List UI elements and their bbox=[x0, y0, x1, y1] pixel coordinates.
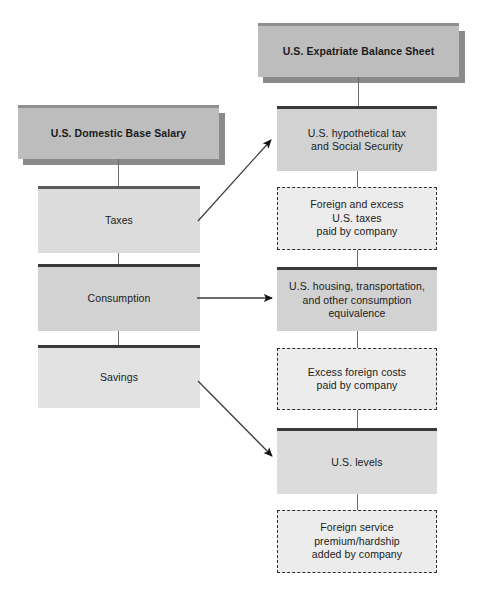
connector-salary-to-taxes bbox=[118, 159, 119, 187]
right-segment-foreign-excess-taxes: Foreign and excessU.S. taxespaid by comp… bbox=[277, 187, 437, 250]
right-segment-excess-foreign-costs-label: Excess foreign costspaid by company bbox=[308, 366, 406, 393]
right-segment-excess-foreign-costs: Excess foreign costspaid by company bbox=[277, 348, 437, 410]
left-title-shadow-right bbox=[219, 113, 225, 165]
connector-foreign-excess-to-housing bbox=[357, 250, 358, 267]
diagram-canvas: U.S. Expatriate Balance Sheet U.S. Domes… bbox=[0, 0, 483, 597]
right-segment-hypothetical-tax-label: U.S. hypothetical taxand Social Security bbox=[308, 127, 406, 154]
right-segment-us-levels: U.S. levels bbox=[277, 428, 437, 494]
right-segment-foreign-excess-taxes-label: Foreign and excessU.S. taxespaid by comp… bbox=[310, 198, 403, 238]
left-segment-consumption-label: Consumption bbox=[88, 292, 151, 305]
connector-excess-foreign-costs-to-us-levels bbox=[357, 410, 358, 428]
connector-consumption-to-savings bbox=[118, 331, 119, 345]
connector-taxes-to-consumption bbox=[118, 253, 119, 264]
connector-title-to-hypothetical-tax bbox=[358, 77, 359, 106]
right-segment-housing-transportation: U.S. housing, transportation,and other c… bbox=[277, 267, 437, 331]
left-segment-consumption: Consumption bbox=[38, 264, 200, 331]
connector-us-levels-to-foreign-service bbox=[357, 494, 358, 510]
domestic-base-salary-title-box: U.S. Domestic Base Salary bbox=[18, 105, 219, 159]
left-segment-taxes: Taxes bbox=[38, 186, 200, 253]
arrow-savings-to-us-levels bbox=[198, 381, 272, 456]
left-segment-taxes-label: Taxes bbox=[105, 214, 133, 227]
left-segment-savings-label: Savings bbox=[100, 371, 138, 384]
left-segment-savings: Savings bbox=[38, 345, 200, 408]
right-segment-foreign-service-premium-label: Foreign servicepremium/hardshipadded by … bbox=[312, 521, 402, 561]
title-shadow-right bbox=[459, 31, 465, 83]
right-segment-hypothetical-tax: U.S. hypothetical taxand Social Security bbox=[277, 106, 437, 171]
right-segment-us-levels-label: U.S. levels bbox=[331, 456, 382, 469]
domestic-base-salary-title-label: U.S. Domestic Base Salary bbox=[51, 127, 187, 140]
expatriate-balance-sheet-title-label: U.S. Expatriate Balance Sheet bbox=[283, 45, 435, 58]
connector-hypothetical-tax-to-foreign-excess bbox=[357, 171, 358, 187]
title-shadow-bottom bbox=[263, 77, 465, 83]
right-segment-foreign-service-premium: Foreign servicepremium/hardshipadded by … bbox=[277, 510, 437, 573]
expatriate-balance-sheet-title-box: U.S. Expatriate Balance Sheet bbox=[258, 23, 459, 77]
right-segment-housing-transportation-label: U.S. housing, transportation,and other c… bbox=[289, 280, 425, 320]
left-title-shadow-bottom bbox=[23, 159, 225, 165]
connector-housing-to-excess-foreign-costs bbox=[357, 331, 358, 348]
